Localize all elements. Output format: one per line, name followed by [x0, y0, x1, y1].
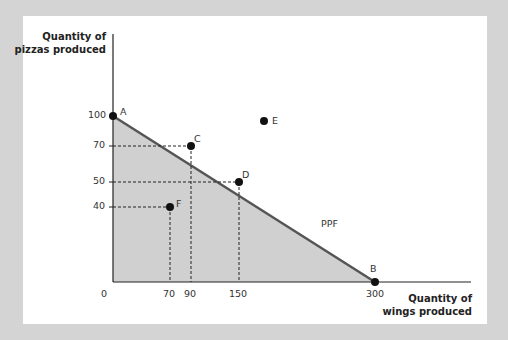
point-e-label: E [272, 115, 278, 126]
point-f [166, 203, 174, 211]
point-a [109, 112, 117, 120]
x-axis-title-line2: wings produced [383, 305, 472, 318]
point-b [371, 278, 379, 286]
y-axis-title-line2: pizzas produced [14, 43, 106, 56]
y-tick-40: 40 [93, 200, 105, 211]
x-tick-150: 150 [229, 288, 247, 299]
origin-label: 0 [101, 288, 107, 299]
point-d-label: D [242, 169, 249, 180]
x-axis-title-line1: Quantity of [383, 292, 472, 305]
y-tick-70: 70 [93, 139, 105, 150]
y-tick-50: 50 [93, 175, 105, 186]
y-axis-title-line1: Quantity of [14, 30, 106, 43]
ppf-label: PPF [321, 218, 338, 229]
point-c-label: C [194, 133, 201, 144]
point-e [260, 117, 268, 125]
point-b-label: B [370, 263, 377, 274]
point-a-label: A [120, 106, 127, 117]
y-tick-100: 100 [88, 109, 106, 120]
x-axis-title: Quantity of wings produced [383, 292, 472, 318]
x-tick-90: 90 [184, 288, 196, 299]
point-f-label: F [176, 198, 181, 209]
x-tick-70: 70 [163, 288, 175, 299]
x-tick-300: 300 [366, 288, 384, 299]
y-axis-title: Quantity of pizzas produced [14, 30, 106, 56]
